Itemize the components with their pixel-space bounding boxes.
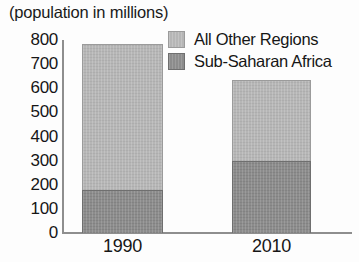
chart-legend: All Other RegionsSub-Saharan Africa [168,29,332,73]
y-tick-label-400: 400 [2,128,58,145]
bar-segment-sub-saharan-africa-2010[interactable] [232,161,311,233]
legend-label: All Other Regions [194,31,318,48]
y-tick-label-300: 300 [2,152,58,169]
y-tick-label-200: 200 [2,176,58,193]
bar-segment-sub-saharan-africa-1990[interactable] [82,190,163,233]
bar-stack-2010[interactable] [232,80,311,233]
y-tick-label-800: 800 [2,31,58,48]
bar-segment-all-other-regions-2010[interactable] [232,80,311,161]
x-axis-label-2010: 2010 [212,236,331,257]
legend-label: Sub-Saharan Africa [194,53,332,70]
y-tick-label-100: 100 [2,200,58,217]
legend-swatch-icon-dark [168,53,185,70]
y-axis-tick-labels: 8007006005004003002001000 [0,0,58,262]
legend-item-1[interactable]: All Other Regions [168,29,332,50]
bar-segment-all-other-regions-1990[interactable] [82,44,163,190]
x-axis-label-1990: 1990 [62,236,183,257]
legend-swatch-icon-light [168,31,185,48]
y-axis-line [62,40,64,234]
y-tick-label-600: 600 [2,79,58,96]
y-tick-label-0: 0 [2,224,58,241]
bar-stack-1990[interactable] [82,44,163,233]
stacked-bar-chart: (population in millions) 800700600500400… [0,0,359,262]
legend-item-2[interactable]: Sub-Saharan Africa [168,51,332,72]
y-tick-label-500: 500 [2,103,58,120]
y-tick-label-700: 700 [2,55,58,72]
